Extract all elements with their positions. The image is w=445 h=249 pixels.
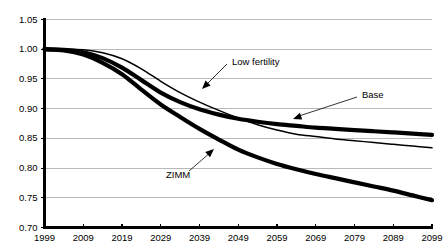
x-axis-tick-label: 2009 — [73, 232, 94, 243]
population-index-line-chart: 0.700.750.800.850.900.951.001.0519992009… — [0, 0, 445, 249]
annotation-leader-line-low-fertility — [205, 64, 227, 86]
annotation-arrowhead-base — [293, 113, 302, 120]
x-axis-tick-label: 2019 — [111, 232, 132, 243]
series-line-zimm — [45, 49, 433, 200]
x-axis-tick-label: 2099 — [421, 232, 442, 243]
annotation-label-zimm: ZIMM — [166, 169, 190, 180]
y-axis-tick-label: 0.75 — [19, 192, 38, 203]
y-axis-tick-label: 1.05 — [19, 14, 38, 25]
x-axis-tick-label: 2079 — [344, 232, 365, 243]
annotation-label-low-fertility: Low fertility — [232, 56, 280, 67]
x-axis-tick-label: 2029 — [150, 232, 171, 243]
x-axis-tick-label: 2049 — [228, 232, 249, 243]
y-axis-tick-label: 0.85 — [19, 132, 38, 143]
y-axis-tick-label: 0.90 — [19, 103, 38, 114]
y-axis-tick-label: 1.00 — [19, 43, 38, 54]
x-axis-tick-label: 2089 — [383, 232, 404, 243]
chart-canvas: 0.700.750.800.850.900.951.001.0519992009… — [0, 0, 445, 249]
annotation-leader-line-base — [296, 97, 357, 117]
x-axis-tick-label: 2039 — [189, 232, 210, 243]
x-axis-tick-label: 2059 — [266, 232, 287, 243]
annotation-label-base: Base — [362, 89, 384, 100]
y-axis-tick-label: 0.95 — [19, 73, 38, 84]
y-axis-tick-label: 0.80 — [19, 162, 38, 173]
x-axis-tick-label: 2069 — [305, 232, 326, 243]
x-axis-tick-label: 1999 — [34, 232, 55, 243]
